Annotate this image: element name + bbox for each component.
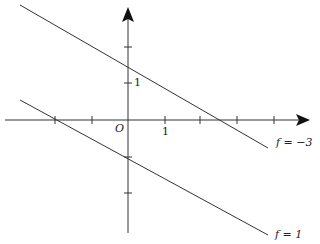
level-line-f-minus-3: [20, 5, 268, 148]
line-label-f-1: f = 1: [275, 229, 302, 240]
x-unit-label: 1: [162, 126, 169, 137]
diagram-canvas: O 1 1 f = −3 f = 1: [0, 0, 320, 244]
line-label-f-minus-3: f = −3: [276, 137, 313, 148]
coordinate-plane: [0, 0, 320, 244]
origin-label: O: [115, 123, 124, 134]
y-unit-label: 1: [134, 77, 141, 88]
